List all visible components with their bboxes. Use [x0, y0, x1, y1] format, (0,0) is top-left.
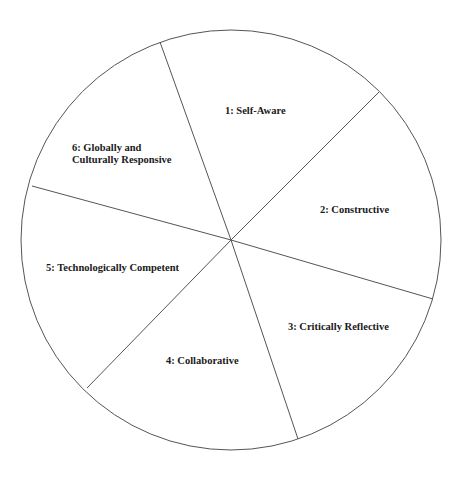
segment-4-label: 4: Collaborative [166, 355, 239, 366]
segment-1-label: 1: Self-Aware [225, 105, 286, 116]
segment-2-label: 2: Constructive [320, 204, 389, 215]
segment-6-label-line-1: 6: Globally and [72, 142, 142, 153]
competency-wheel: 1: Self-Aware 2: Constructive 3: Critica… [0, 0, 461, 477]
segment-3-label: 3: Critically Reflective [288, 321, 389, 332]
segment-5-label: 5: Technologically Competent [46, 262, 180, 273]
segment-6-label-line-2: Culturally Responsive [72, 154, 172, 165]
